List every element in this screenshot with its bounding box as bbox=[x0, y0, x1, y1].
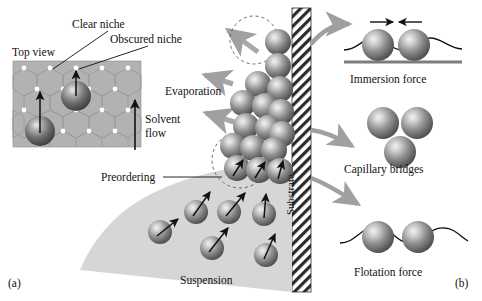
label-solvent-flow-2: flow bbox=[145, 127, 166, 139]
label-capillary-bridges: Capillary bridges bbox=[344, 163, 424, 175]
panel-a-label: (a) bbox=[8, 277, 21, 289]
figure-canvas: Clear niche Obscured niche Top view Evap… bbox=[0, 0, 482, 301]
label-obscured-niche: Obscured niche bbox=[110, 33, 182, 45]
connector-arrows bbox=[311, 24, 358, 204]
panel-b-label: (b) bbox=[455, 277, 468, 289]
top-view-inset bbox=[13, 61, 141, 147]
label-solvent-flow-1: Solvent bbox=[145, 113, 180, 125]
label-preordering: Preordering bbox=[101, 171, 155, 183]
label-top-view: Top view bbox=[12, 46, 55, 58]
label-immersion-force: Immersion force bbox=[350, 73, 426, 85]
label-flotation-force: Flotation force bbox=[354, 266, 422, 278]
flotation-force-diagram bbox=[340, 221, 468, 253]
substrate-band bbox=[292, 8, 311, 292]
figure-svg bbox=[0, 0, 482, 301]
immersion-force-diagram bbox=[344, 22, 462, 62]
capillary-bridges-diagram bbox=[367, 107, 433, 168]
label-clear-niche: Clear niche bbox=[72, 18, 125, 30]
label-substrate: Substrate bbox=[285, 174, 297, 215]
label-evaporation: Evaporation bbox=[165, 85, 221, 97]
label-suspension: Suspension bbox=[180, 274, 232, 286]
